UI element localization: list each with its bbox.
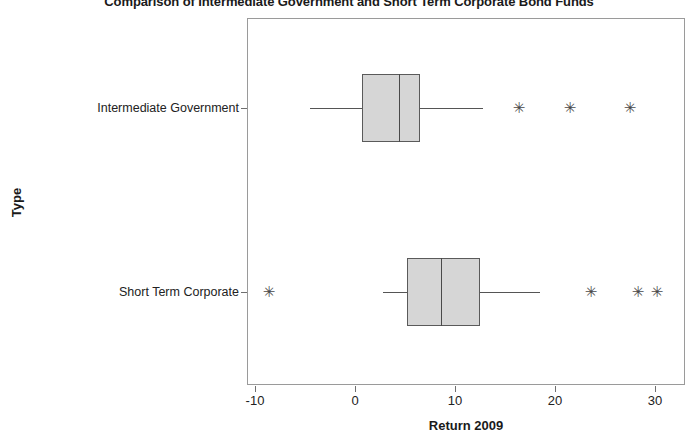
x-tick-label: -10	[246, 393, 265, 408]
x-tick-label: 20	[548, 393, 562, 408]
outlier-marker: ✳	[651, 285, 664, 300]
plot-area	[247, 18, 685, 385]
upper-whisker	[480, 292, 540, 293]
x-tick-label: 30	[648, 393, 662, 408]
outlier-marker: ✳	[564, 101, 577, 116]
x-tick-mark	[455, 386, 456, 392]
x-tick-mark	[355, 386, 356, 392]
x-tick-mark	[255, 386, 256, 392]
x-tick-mark	[555, 386, 556, 392]
boxplot-figure: Comparison of Intermediate Government an…	[0, 0, 698, 448]
outlier-marker: ✳	[632, 285, 645, 300]
y-tick-label: Short Term Corporate	[119, 285, 239, 299]
outlier-marker: ✳	[624, 101, 637, 116]
outlier-marker: ✳	[513, 101, 526, 116]
x-tick-label: 0	[351, 393, 358, 408]
lower-whisker	[310, 108, 362, 109]
upper-whisker	[420, 108, 483, 109]
x-tick-label: 10	[448, 393, 462, 408]
y-axis-title: Type	[9, 173, 24, 233]
x-tick-mark	[655, 386, 656, 392]
chart-title: Comparison of Intermediate Government an…	[0, 0, 698, 9]
y-tick-mark	[241, 292, 247, 293]
median-line	[441, 258, 442, 326]
y-tick-mark	[241, 108, 247, 109]
box-iqr	[407, 258, 480, 326]
box-iqr	[362, 74, 420, 142]
y-tick-label: Intermediate Government	[97, 101, 239, 115]
outlier-marker: ✳	[585, 285, 598, 300]
lower-whisker	[383, 292, 407, 293]
outlier-marker: ✳	[263, 285, 276, 300]
median-line	[399, 74, 400, 142]
x-axis-title: Return 2009	[247, 418, 685, 433]
